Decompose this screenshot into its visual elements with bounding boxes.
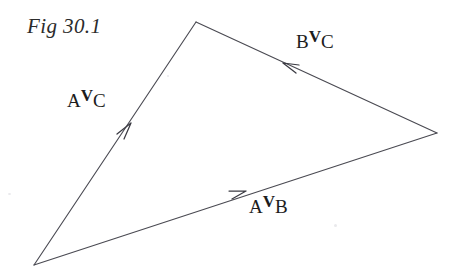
label-a-v-b: AVB — [249, 196, 288, 216]
label-a-v-b-symbol: V — [263, 192, 275, 211]
a-v-c-arrow — [34, 22, 196, 265]
label-a-v-c-post: C — [93, 90, 106, 111]
label-a-v-c-pre: A — [67, 90, 81, 111]
label-b-v-c-pre: B — [296, 31, 309, 52]
figure-canvas: Fig 30.1 AVC BVC AVB — [0, 0, 449, 276]
label-b-v-c-symbol: V — [309, 27, 321, 46]
label-b-v-c-post: C — [321, 31, 334, 52]
a-v-c-shaft — [34, 22, 196, 265]
label-a-v-c-symbol: V — [81, 86, 93, 105]
label-a-v-c: AVC — [67, 90, 106, 110]
label-a-v-b-pre: A — [249, 196, 263, 217]
a-v-b-shaft — [34, 133, 437, 265]
label-a-v-b-post: B — [275, 196, 288, 217]
label-b-v-c: BVC — [296, 31, 334, 51]
vector-triangle-diagram — [0, 0, 449, 276]
figure-caption: Fig 30.1 — [27, 14, 101, 39]
a-v-b-arrow — [34, 133, 437, 265]
